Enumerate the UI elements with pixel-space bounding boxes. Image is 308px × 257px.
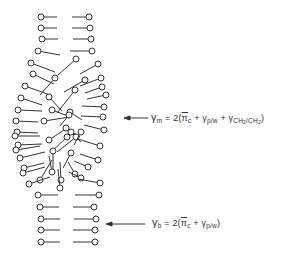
lipid-molecule xyxy=(13,146,40,153)
gamma-m-plus-1: + xyxy=(191,113,202,123)
lipid-head-icon xyxy=(38,14,44,20)
lipid-head-icon xyxy=(28,60,34,66)
gamma-b-pw-sub: p/w xyxy=(206,222,217,229)
lipid-head-icon xyxy=(92,227,98,233)
lipid-tail xyxy=(21,110,42,111)
lipid-tail xyxy=(19,121,38,122)
lipid-tail xyxy=(26,167,45,172)
lipid-head-icon xyxy=(49,107,55,113)
lipid-head-icon xyxy=(78,129,84,135)
gamma-b-subscript: b xyxy=(158,222,162,229)
lipid-head-icon xyxy=(46,137,52,143)
lipid-head-icon xyxy=(38,25,44,31)
lipid-head-icon xyxy=(86,14,92,20)
lipid-molecule xyxy=(38,14,57,20)
lipid-molecule xyxy=(49,156,55,175)
lipid-head-icon xyxy=(98,75,104,81)
lipid-molecule xyxy=(78,139,103,149)
lipid-molecule xyxy=(15,142,42,148)
lipid-molecule xyxy=(78,179,103,186)
lipid-head-icon xyxy=(99,84,105,90)
lipid-head-icon xyxy=(88,36,94,42)
lipid-molecule xyxy=(13,118,38,124)
lipid-head-icon xyxy=(46,94,52,100)
lipid-tail xyxy=(34,64,55,72)
arrows xyxy=(106,116,148,226)
lipid-tail xyxy=(63,156,70,168)
lipid-molecule xyxy=(38,227,60,233)
lipid-molecule xyxy=(72,25,93,31)
lipid-head-icon xyxy=(92,239,98,245)
lipid-molecule xyxy=(58,56,79,75)
lipid-tail xyxy=(27,163,44,167)
lipid-head-icon xyxy=(82,77,88,83)
lipid-head-icon xyxy=(20,170,26,176)
lipid-molecule xyxy=(30,71,54,84)
lipid-head-icon xyxy=(95,157,101,163)
gamma-b-close: ) xyxy=(217,218,220,228)
lipid-molecule xyxy=(70,48,95,54)
lipid-head-icon xyxy=(89,48,95,54)
lipid-molecule xyxy=(73,36,94,42)
lipid-molecule xyxy=(84,125,107,133)
lipid-molecule xyxy=(35,48,60,55)
lipid-head-icon xyxy=(52,75,58,81)
lipid-head-icon xyxy=(64,134,70,140)
lipid-head-icon xyxy=(73,56,79,62)
lipid-molecule xyxy=(41,117,70,124)
lipid-head-icon xyxy=(93,216,99,222)
lipid-molecule xyxy=(68,162,78,177)
lipid-head-icon xyxy=(22,83,28,89)
lipid-tail xyxy=(82,106,101,107)
lipid-tail xyxy=(72,114,82,120)
lipid-molecule xyxy=(82,104,107,110)
lipid-head-icon xyxy=(68,150,74,156)
lipid-tail xyxy=(19,146,40,150)
lipid-head-icon xyxy=(37,204,43,210)
lipid-head-icon xyxy=(13,147,19,153)
lipid-molecule xyxy=(18,95,42,105)
lipid-molecule xyxy=(80,154,101,163)
lipid-head-icon xyxy=(85,164,91,170)
lipid-tail xyxy=(24,99,42,105)
ch2-a: CH xyxy=(233,117,243,124)
lipid-head-icon xyxy=(101,104,107,110)
lipid-chains xyxy=(12,14,109,245)
lipid-head-icon xyxy=(87,25,93,31)
lipid-head-icon xyxy=(103,92,109,98)
lipid-molecule xyxy=(75,192,102,198)
lipid-molecule xyxy=(38,239,60,245)
lipid-head-icon xyxy=(41,118,47,124)
lipid-head-icon xyxy=(38,239,44,245)
lipid-head-icon xyxy=(49,169,55,175)
gamma-b-equals: = 2( xyxy=(164,218,181,228)
lipid-molecule xyxy=(37,204,59,210)
lipid-tail xyxy=(40,80,53,95)
lipid-tail xyxy=(84,125,101,129)
lipid-molecule xyxy=(73,204,97,210)
lipid-tail xyxy=(85,88,99,93)
lipid-molecule xyxy=(73,239,98,245)
lipid-tail xyxy=(60,162,61,177)
lipid-head-icon xyxy=(30,71,36,77)
lipid-head-icon xyxy=(66,112,72,118)
lipid-head-icon xyxy=(18,95,24,101)
lipid-molecule xyxy=(80,61,101,74)
lipid-head-icon xyxy=(17,155,23,161)
lipid-head-icon xyxy=(13,118,19,124)
lipid-tail xyxy=(21,144,42,145)
lipid-head-icon xyxy=(95,61,101,67)
lipid-molecule xyxy=(15,107,42,113)
lipid-tail xyxy=(49,156,51,169)
lipid-molecule xyxy=(39,36,58,42)
lipid-tail xyxy=(41,52,60,55)
gamma-m-pw-sub: p/w xyxy=(207,117,218,124)
lipid-head-icon xyxy=(72,87,78,93)
lipid-tail xyxy=(87,96,103,99)
gamma-m-subscript: m xyxy=(157,117,163,124)
lipid-molecule xyxy=(17,152,45,161)
gamma-m-close: ) xyxy=(261,113,264,123)
lipid-molecule xyxy=(73,227,98,233)
lipid-molecule xyxy=(81,114,106,120)
lipid-tail xyxy=(28,87,50,95)
